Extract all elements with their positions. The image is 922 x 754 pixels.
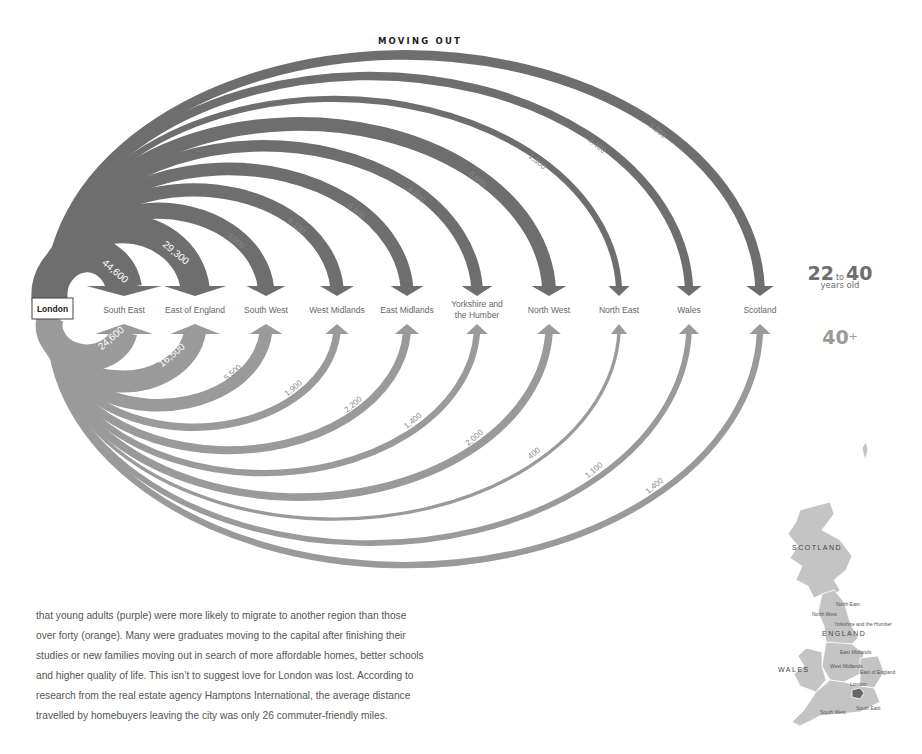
region-label: the Humber [455, 310, 500, 320]
region-label: Yorkshire and [451, 299, 503, 309]
region-label: South East [103, 305, 145, 315]
svg-text:London: London [850, 681, 867, 687]
map-shetland [862, 442, 868, 460]
arrow-up-icon [611, 324, 627, 334]
arrow-down-icon [320, 286, 354, 296]
svg-text:South West: South West [820, 709, 846, 715]
value-label-young: 1,300 [527, 152, 549, 172]
arrow-down-icon [676, 286, 701, 296]
region-label: Scotland [743, 305, 776, 315]
arrow-down-icon [532, 286, 567, 296]
arrow-up-icon [395, 324, 419, 334]
arrow-down-icon [462, 286, 493, 296]
region-label: North East [599, 305, 640, 315]
svg-text:East Midlands: East Midlands [840, 649, 872, 655]
arrow-up-icon [679, 324, 699, 334]
arrow-up-icon [170, 324, 219, 334]
svg-text:Yorkshire and the Humber: Yorkshire and the Humber [834, 621, 892, 627]
chart-title: MOVING OUT [0, 36, 840, 46]
uk-regions-map: SCOTLAND ENGLAND WALES North East North … [760, 430, 920, 750]
region-label: South West [244, 305, 288, 315]
region-label: East of England [165, 305, 225, 315]
region-label: East Midlands [380, 305, 433, 315]
arrow-down-icon [391, 286, 424, 296]
map-label-scotland: SCOTLAND [792, 544, 842, 551]
region-label: West Midlands [309, 305, 365, 315]
map-label-england: ENGLAND [822, 630, 866, 637]
arrow-down-icon [87, 286, 162, 296]
arrow-up-icon [537, 324, 561, 334]
arrow-down-icon [164, 286, 227, 296]
legend-over-forty: 40+ [800, 326, 880, 348]
arrow-up-icon [325, 324, 348, 334]
svg-text:East of England: East of England [860, 669, 896, 675]
arrow-up-icon [250, 324, 283, 334]
origin-label: London [37, 304, 68, 314]
arrow-down-icon [246, 286, 285, 296]
arc-over40-8 [50, 318, 689, 543]
value-label-young: 2,400 [586, 135, 608, 155]
legend-young-adults: 22to40 years old [800, 262, 880, 290]
arrow-up-icon [749, 324, 770, 334]
svg-text:South East: South East [856, 705, 881, 711]
body-paragraph: that young adults (purple) were more lik… [36, 606, 476, 726]
map-label-wales: WALES [778, 666, 810, 673]
region-label: North West [528, 305, 571, 315]
map-midlands [822, 642, 864, 682]
arrow-down-icon [746, 286, 773, 296]
svg-text:West Midlands: West Midlands [830, 663, 863, 669]
svg-text:North West: North West [812, 611, 838, 617]
region-label: Wales [677, 305, 700, 315]
arrow-down-icon [608, 286, 629, 296]
arrow-up-icon [466, 324, 487, 334]
svg-text:North East: North East [836, 601, 860, 607]
